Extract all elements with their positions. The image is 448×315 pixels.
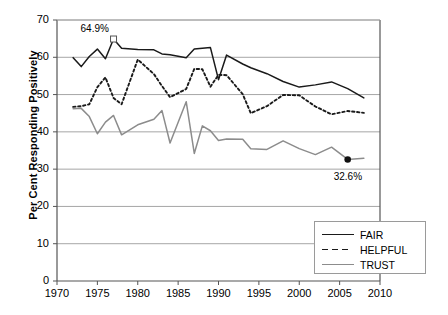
x-tick-label: 1975 [77,287,117,299]
y-tick-label: 70 [19,13,49,25]
line-chart: Per Cent Responding Positively 010203040… [0,0,448,315]
y-tick-label: 20 [19,199,49,211]
annotation-end-value: 32.6% [334,171,362,182]
x-tick-label: 2010 [360,287,400,299]
legend-label-fair: FAIR [360,230,383,240]
series-line-trust [73,102,364,160]
legend: FAIR HELPFUL TRUST [314,221,426,274]
y-tick-label: 30 [19,162,49,174]
annotation-peak-value: 64.9% [81,23,109,34]
legend-label-trust: TRUST [360,260,395,270]
legend-swatch-trust-icon [322,260,354,270]
y-tick-label: 60 [19,50,49,62]
x-tick-label: 1985 [158,287,198,299]
legend-item-trust: TRUST [315,257,425,272]
marker-filled-circle [344,156,351,163]
legend-swatch-fair-icon [322,230,354,240]
x-tick-label: 1980 [118,287,158,299]
x-tick-label: 1970 [37,287,77,299]
legend-swatch-helpful-icon [322,245,354,255]
y-tick-label: 0 [19,274,49,286]
legend-label-helpful: HELPFUL [360,245,407,255]
legend-item-helpful: HELPFUL [315,242,425,257]
y-tick-label: 10 [19,237,49,249]
y-tick-label: 40 [19,125,49,137]
y-tick-label: 50 [19,88,49,100]
marker-open-square [111,36,117,42]
x-tick-label: 1990 [199,287,239,299]
series-line-fair [73,39,364,98]
x-tick-label: 2000 [279,287,319,299]
x-tick-label: 1995 [239,287,279,299]
legend-item-fair: FAIR [315,227,425,242]
x-tick-label: 2005 [320,287,360,299]
series-line-helpful [73,60,364,115]
